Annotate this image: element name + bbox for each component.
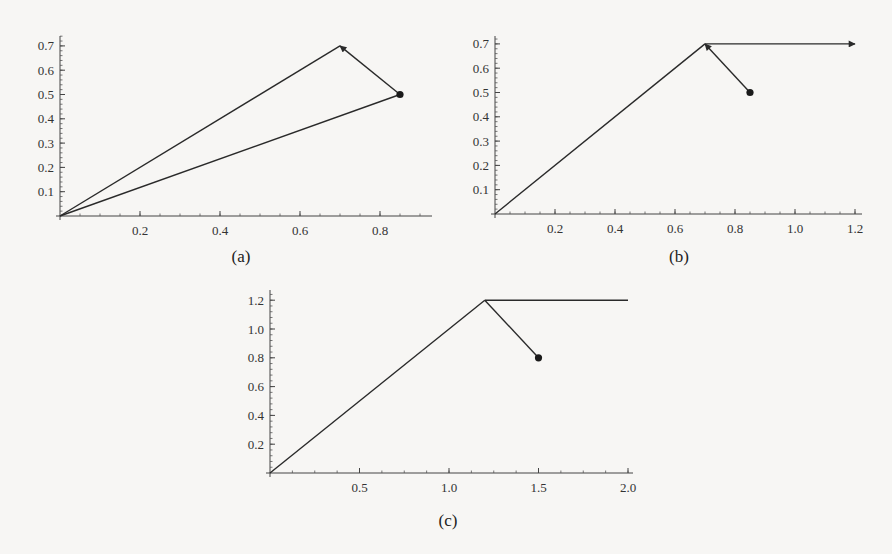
data-point-marker bbox=[396, 91, 403, 98]
y-tick-label: 0.6 bbox=[38, 63, 55, 78]
data-point-marker bbox=[746, 89, 753, 96]
x-tick-label: 0.4 bbox=[212, 223, 229, 238]
data-point-marker bbox=[535, 354, 542, 361]
y-tick-label: 0.1 bbox=[38, 184, 54, 199]
y-tick-label: 0.1 bbox=[473, 182, 489, 197]
y-tick-label: 1.0 bbox=[248, 322, 264, 337]
y-tick-label: 0.4 bbox=[38, 111, 55, 126]
y-tick-label: 0.7 bbox=[38, 38, 55, 53]
x-tick-label: 0.6 bbox=[667, 221, 684, 236]
y-tick-label: 0.5 bbox=[473, 85, 489, 100]
line-segment bbox=[485, 300, 539, 358]
subplot-b: 0.20.40.60.81.01.20.10.20.30.40.50.60.7 bbox=[473, 36, 863, 236]
y-tick-label: 0.2 bbox=[473, 158, 489, 173]
x-tick-label: 1.0 bbox=[441, 480, 457, 495]
x-tick-label: 2.0 bbox=[620, 480, 636, 495]
x-tick-label: 1.2 bbox=[847, 221, 863, 236]
arrow-segment bbox=[340, 46, 400, 95]
x-tick-label: 0.2 bbox=[547, 221, 563, 236]
x-tick-label: 0.2 bbox=[132, 223, 148, 238]
y-tick-label: 0.5 bbox=[38, 87, 54, 102]
x-tick-label: 0.6 bbox=[292, 223, 309, 238]
caption-b: (b) bbox=[669, 247, 689, 266]
line-segment bbox=[270, 300, 485, 473]
caption-c: (c) bbox=[439, 511, 458, 530]
y-tick-label: 0.2 bbox=[38, 160, 54, 175]
y-tick-label: 0.6 bbox=[248, 379, 265, 394]
y-tick-label: 0.7 bbox=[473, 36, 490, 51]
x-tick-label: 1.0 bbox=[787, 221, 803, 236]
y-tick-label: 0.4 bbox=[473, 109, 490, 124]
y-tick-label: 0.8 bbox=[248, 350, 264, 365]
subplot-a: 0.20.40.60.80.10.20.30.40.50.60.7 bbox=[38, 36, 432, 238]
y-tick-label: 0.3 bbox=[473, 134, 489, 149]
subplot-c: 0.51.01.52.00.20.40.60.81.01.2 bbox=[248, 290, 636, 495]
x-tick-label: 0.8 bbox=[372, 223, 388, 238]
y-tick-label: 0.3 bbox=[38, 136, 54, 151]
caption-a: (a) bbox=[232, 247, 251, 266]
x-tick-label: 0.8 bbox=[727, 221, 743, 236]
figure-canvas: 0.20.40.60.80.10.20.30.40.50.60.7 0.20.4… bbox=[0, 0, 892, 554]
y-tick-label: 1.2 bbox=[248, 293, 264, 308]
arrow-segment bbox=[705, 44, 750, 93]
x-tick-label: 0.4 bbox=[607, 221, 624, 236]
y-tick-label: 0.2 bbox=[248, 437, 264, 452]
y-tick-label: 0.6 bbox=[473, 61, 490, 76]
x-tick-label: 1.5 bbox=[530, 480, 546, 495]
line-segment bbox=[495, 44, 705, 214]
y-tick-label: 0.4 bbox=[248, 408, 265, 423]
x-tick-label: 0.5 bbox=[351, 480, 367, 495]
